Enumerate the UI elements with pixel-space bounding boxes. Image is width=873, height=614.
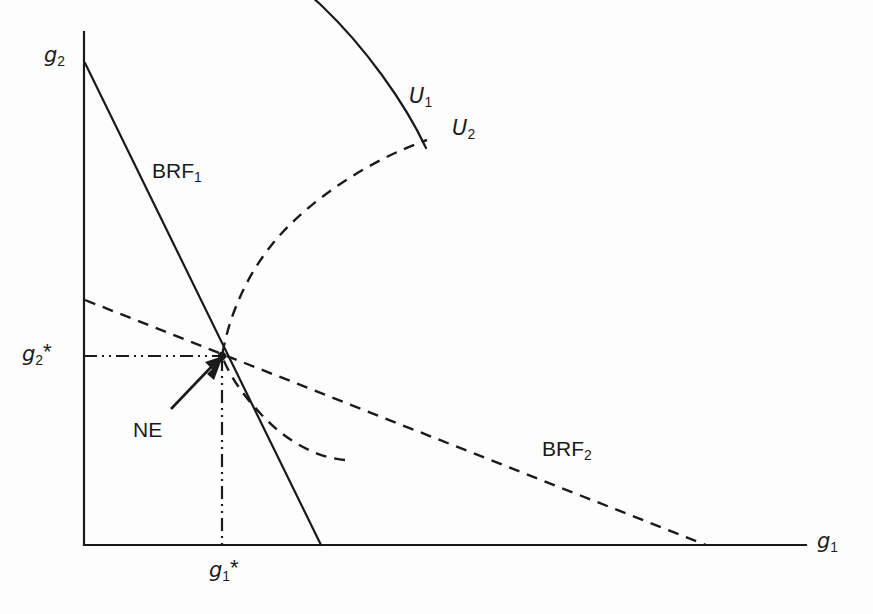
figure-root: g2 g1 BRF1 BRF2 U1 U2 NE g2* g1* — [0, 0, 873, 614]
u2-label: U2 — [452, 117, 475, 142]
g2-star-label: g2* — [22, 341, 52, 367]
ne-label: NE — [133, 419, 162, 440]
x-axis-label: g1 — [817, 530, 838, 555]
ne-arrow-shaft — [171, 364, 214, 409]
y-axis-label: g2 — [44, 44, 65, 69]
brf2-curve — [85, 300, 706, 545]
brf1-label: BRF1 — [152, 160, 202, 185]
ne-point-marker — [218, 352, 226, 360]
u1-curve — [137, 0, 426, 148]
u2-curve — [222, 140, 427, 460]
brf1-curve — [85, 63, 321, 545]
nash-equilibrium-diagram — [0, 0, 873, 614]
g1-star-label: g1* — [209, 557, 239, 583]
u1-label: U1 — [409, 85, 432, 110]
brf2-label: BRF2 — [542, 438, 592, 463]
